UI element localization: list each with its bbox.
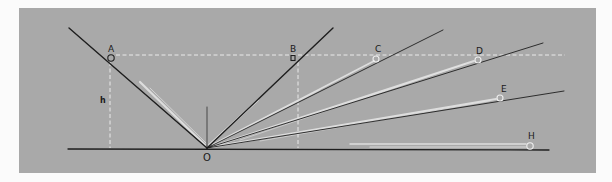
label-d: D — [476, 46, 483, 56]
reflection-diagram: A B C D E H O h — [0, 0, 612, 182]
label-c: C — [375, 44, 381, 54]
label-e: E — [501, 84, 507, 94]
label-b: B — [290, 44, 296, 54]
label-height: h — [100, 96, 106, 105]
label-o: O — [203, 152, 211, 163]
label-h: H — [528, 131, 535, 141]
label-a: A — [108, 44, 115, 54]
diagram-panel — [19, 8, 596, 173]
